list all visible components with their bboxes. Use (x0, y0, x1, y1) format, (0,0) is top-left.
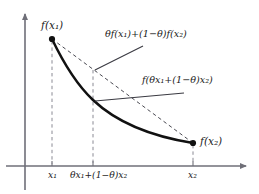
label-f-x1: f(x₁) (41, 20, 63, 31)
axes (6, 14, 246, 190)
leader-curve-line (95, 93, 184, 101)
top-text-strip (0, 0, 259, 9)
axis-label-x2: x₂ (188, 170, 197, 179)
leader-chord-line (95, 46, 143, 70)
axis-label-x1: x₁ (48, 170, 57, 179)
chord-line (52, 39, 193, 143)
label-chord-value: θf(x₁)+(1−θ)f(x₂) (105, 29, 187, 39)
axis-label-x-mid: θx₁+(1−θ)x₂ (70, 170, 127, 179)
label-f-x2: f(x₂) (200, 136, 222, 147)
guide-lines (52, 41, 193, 164)
point-right-endpoint (190, 140, 196, 146)
point-left-endpoint (49, 36, 55, 42)
label-curve-value: f(θx₁+(1−θ)x₂) (142, 75, 213, 85)
